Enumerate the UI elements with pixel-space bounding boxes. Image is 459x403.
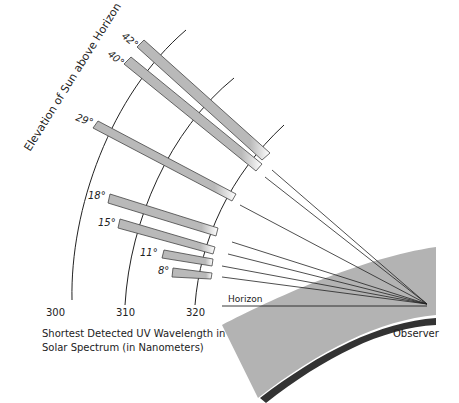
earth-land-band bbox=[222, 247, 436, 398]
bar-8 bbox=[172, 268, 212, 279]
elevation-label-29: 29° bbox=[74, 112, 94, 128]
tick-310: 310 bbox=[116, 307, 135, 318]
tick-320: 320 bbox=[186, 307, 205, 318]
axis-caption-line2: Solar Spectrum (in Nanometers) bbox=[42, 342, 204, 353]
elevation-bars bbox=[93, 40, 270, 279]
elevation-label-8: 8° bbox=[158, 265, 169, 276]
bar-11 bbox=[162, 250, 213, 266]
elevation-label-15: 15° bbox=[98, 217, 116, 228]
axis-caption-line1: Shortest Detected UV Wavelength in bbox=[42, 328, 225, 339]
uv-elevation-diagram: 42° 40° 29° 18° 15° 11° 8° Elevation of … bbox=[0, 0, 459, 403]
elevation-label-11: 11° bbox=[140, 247, 158, 258]
elevation-label-18: 18° bbox=[88, 190, 106, 201]
elevation-label-40: 40° bbox=[106, 48, 127, 68]
bar-42 bbox=[137, 40, 270, 160]
horizon-label: Horizon bbox=[228, 294, 262, 304]
observer-label: Observer bbox=[393, 328, 440, 339]
tick-300: 300 bbox=[46, 307, 65, 318]
